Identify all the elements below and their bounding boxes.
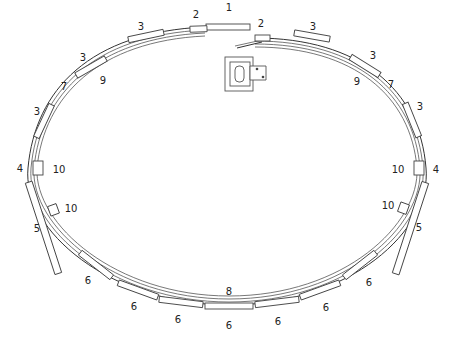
component-label-3: 3 xyxy=(417,101,423,112)
magnet-3-top-left xyxy=(128,29,164,42)
component-label-6: 6 xyxy=(323,302,329,313)
component-label-10: 10 xyxy=(382,200,395,211)
magnet-4-left xyxy=(33,161,43,175)
component-label-6: 6 xyxy=(275,316,281,327)
component-label-10: 10 xyxy=(392,164,405,175)
component-label-3: 3 xyxy=(370,50,376,61)
component-label-10: 10 xyxy=(53,164,66,175)
component-label-6: 6 xyxy=(85,275,91,286)
component-label-9: 9 xyxy=(100,75,106,86)
component-label-4: 4 xyxy=(433,164,439,175)
component-label-6: 6 xyxy=(175,314,181,325)
component-label-7: 7 xyxy=(388,79,394,90)
component-label-10: 10 xyxy=(65,203,78,214)
magnet-6-d xyxy=(205,303,253,309)
magnet-2-left xyxy=(190,26,207,33)
magnet-2-right xyxy=(255,35,270,41)
component-label-3: 3 xyxy=(80,52,86,63)
component-label-5: 5 xyxy=(34,223,40,234)
magnet-6-g xyxy=(342,250,377,279)
component-label-8: 8 xyxy=(226,286,232,297)
magnet-5-left xyxy=(25,181,61,274)
component-label-3: 3 xyxy=(34,106,40,117)
component-label-2: 2 xyxy=(258,18,264,29)
magnet-4-right xyxy=(414,161,424,175)
component-label-7: 7 xyxy=(61,81,67,92)
magnet-10-left-low xyxy=(48,204,60,216)
magnet-1 xyxy=(206,24,250,30)
component-label-6: 6 xyxy=(131,301,137,312)
component-label-6: 6 xyxy=(366,277,372,288)
component-label-3: 3 xyxy=(138,21,144,32)
injector-block xyxy=(225,57,266,91)
magnet-10-right-low xyxy=(398,202,410,214)
component-label-1: 1 xyxy=(226,2,232,13)
component-label-4: 4 xyxy=(17,163,23,174)
storage-ring-diagram: 122333333779944101010105566666668 xyxy=(0,0,456,339)
component-label-2: 2 xyxy=(193,9,199,20)
component-label-9: 9 xyxy=(354,76,360,87)
component-label-6: 6 xyxy=(226,320,232,331)
component-label-5: 5 xyxy=(416,222,422,233)
component-labels: 122333333779944101010105566666668 xyxy=(17,2,439,331)
component-label-3: 3 xyxy=(310,21,316,32)
